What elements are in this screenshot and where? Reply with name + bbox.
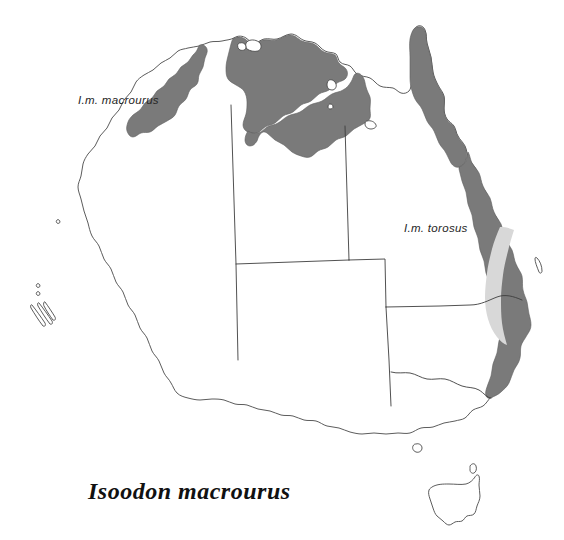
island-wa-north [56, 220, 60, 224]
species-distribution-map: I.m. macrourus I.m. torosus Isoodon macr… [0, 0, 564, 540]
island-fraser [535, 257, 542, 273]
island-wa-mid-lower [36, 292, 40, 296]
island-gulf-small [328, 104, 333, 109]
island-melville [246, 40, 261, 51]
island-flinders [470, 464, 476, 474]
subspecies-label-torosus: I.m. torosus [404, 222, 468, 234]
subspecies-label-macrourus: I.m. macrourus [78, 94, 159, 106]
island-bathurst [238, 43, 246, 51]
island-groote-eylandt [327, 80, 336, 90]
species-title: Isoodon macrourus [87, 478, 291, 504]
island-wa-mid-upper [36, 284, 40, 288]
island-kangaroo [413, 444, 422, 453]
australia-map-svg: I.m. macrourus I.m. torosus Isoodon macr… [0, 0, 564, 540]
island-tasmania [429, 475, 480, 525]
